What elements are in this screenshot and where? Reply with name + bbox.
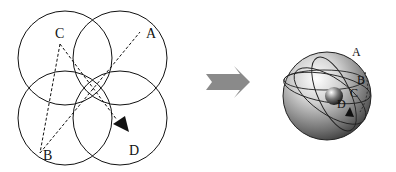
planar-circles-diagram (18, 11, 167, 165)
label-b: B (43, 148, 52, 163)
circle-bottom-left (18, 71, 112, 165)
transform-arrow-icon (206, 66, 250, 98)
label-a: A (146, 26, 157, 41)
diagram-canvas: C A B D A B C D (0, 0, 396, 172)
sphere-label-b: B (357, 73, 365, 87)
label-c: C (55, 26, 64, 41)
sphere-diagram: A B C D (281, 45, 374, 140)
sphere-label-a: A (352, 45, 361, 59)
label-d: D (129, 143, 139, 158)
dashed-path (40, 32, 140, 153)
sphere-label-c: C (350, 86, 358, 100)
circle-bottom-right (73, 71, 167, 165)
circle-top-left (18, 11, 112, 105)
sphere-label-d: D (337, 97, 346, 111)
